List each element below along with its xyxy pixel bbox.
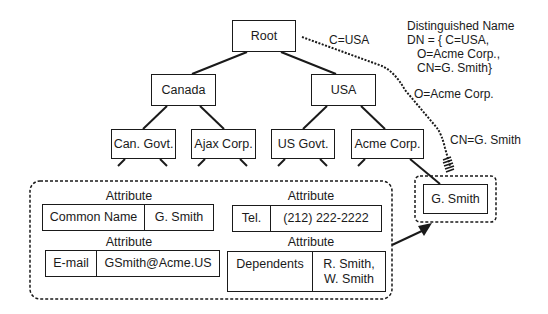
edge-root-canada [192,52,247,74]
attribute-arrowhead [418,223,432,236]
attribute-value: (212) 222-2222 [271,206,381,231]
node-root-label: Root [251,29,277,43]
attribute-title: Attribute [236,189,386,203]
attribute-dependents: Dependents R. Smith, W. Smith [227,251,386,292]
node-can-govt: Can. Govt. [111,129,176,159]
node-us-govt: US Govt. [271,129,335,159]
node-can-govt-label: Can. Govt. [114,137,174,151]
node-canada: Canada [151,74,216,106]
edge-canada-cangovt [143,106,167,129]
edge-root-usa [281,52,336,74]
attribute-title: Attribute [42,189,216,203]
attribute-name: Dependents [228,252,312,276]
attribute-name: Common Name [43,205,144,230]
attribute-title: Attribute [236,235,386,249]
attribute-common-name: Common Name G. Smith [42,204,214,231]
edge-canada-ajax [200,106,224,129]
attribute-value-line-1: R. Smith, [323,257,374,272]
edge-usa-usgovt [303,106,327,129]
node-acme-corp-label: Acme Corp. [355,137,421,151]
attribute-arrow [392,230,424,245]
dn-title: Distinguished Name [407,19,514,33]
attribute-value: R. Smith, W. Smith [313,252,385,291]
dn-path-arrowhead [443,157,454,172]
node-ajax-corp-label: Ajax Corp. [194,137,252,151]
node-g-smith-label: G. Smith [431,192,480,206]
attribute-name: E-mail [46,251,96,276]
node-root: Root [232,20,296,52]
attribute-name: Tel. [233,206,270,231]
node-ajax-corp: Ajax Corp. [191,129,256,159]
dn-line-3: CN=G. Smith} [417,61,492,75]
attribute-value-line-2: W. Smith [324,272,374,287]
node-us-govt-label: US Govt. [278,137,329,151]
attribute-value: GSmith@Acme.US [97,251,219,276]
node-canada-label: Canada [162,83,206,97]
edge-usa-acme [361,106,385,129]
path-label-o: O=Acme Corp. [414,87,494,101]
attribute-value: G. Smith [145,205,213,230]
path-label-c: C=USA [329,33,369,47]
node-g-smith: G. Smith [423,184,488,214]
attribute-title: Attribute [42,235,216,249]
dn-line-2: O=Acme Corp., [417,47,500,61]
node-usa: USA [311,74,376,106]
node-acme-corp: Acme Corp. [351,129,424,159]
node-usa-label: USA [331,83,357,97]
path-label-cn: CN=G. Smith [450,133,521,147]
dn-line-1: DN = { C=USA, [407,33,489,47]
attribute-email: E-mail GSmith@Acme.US [45,250,220,277]
attribute-tel: Tel. (212) 222-2222 [232,205,382,232]
